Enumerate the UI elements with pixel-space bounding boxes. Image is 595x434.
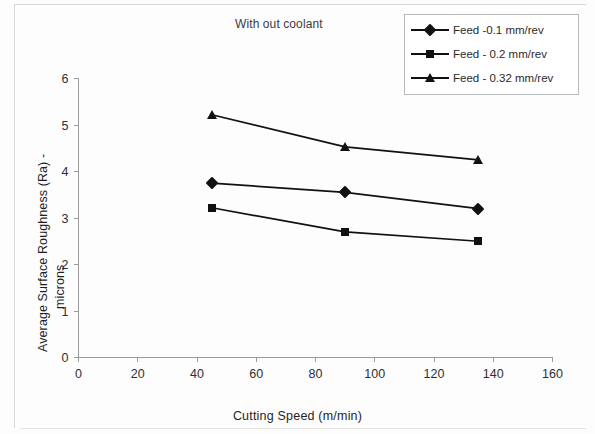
x-axis-title: Cutting Speed (m/min) <box>0 409 595 423</box>
y-axis-title-line-1: Average Surface Roughness (Ra) - <box>36 154 50 352</box>
series-line-3 <box>212 115 479 160</box>
chart-axes <box>74 79 553 363</box>
x-axis-tick-label: 40 <box>190 367 204 381</box>
series-line-1 <box>212 183 479 209</box>
x-axis-tick-label: 0 <box>75 367 82 381</box>
x-axis-tick-label: 20 <box>131 367 145 381</box>
y-axis-title: Average Surface Roughness (Ra) - microns <box>22 60 66 360</box>
series-line-2 <box>212 208 479 241</box>
x-axis-tick-label: 100 <box>364 367 385 381</box>
chart-series-lines <box>212 115 479 241</box>
chart-figure: With out coolant Feed -0.1 mm/rev Feed -… <box>0 0 595 434</box>
x-axis-tick-label: 80 <box>309 367 323 381</box>
x-axis-tick-label: 160 <box>542 367 563 381</box>
x-axis-tick-label: 140 <box>483 367 504 381</box>
x-axis-tick-label: 60 <box>249 367 263 381</box>
plot-canvas: 0123456020406080100120140160 <box>0 0 595 434</box>
x-axis-tick-label: 120 <box>424 367 445 381</box>
y-axis-title-line-2: microns <box>53 265 67 309</box>
